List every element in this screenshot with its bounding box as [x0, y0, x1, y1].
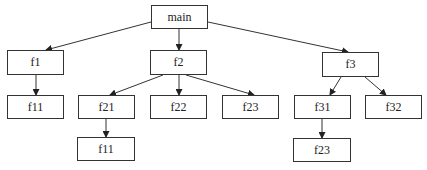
edge-f2-to-f23a: [186, 75, 254, 95]
node-f23-under-f31: f23: [293, 138, 351, 162]
node-f2: f2: [150, 50, 207, 75]
node-f1: f1: [7, 50, 64, 75]
edge-main-to-f3: [208, 22, 348, 52]
node-f21: f21: [78, 95, 135, 119]
node-f22: f22: [150, 95, 207, 119]
node-main: main: [151, 5, 208, 29]
node-f32: f32: [365, 95, 422, 119]
node-f11-under-f21: f11: [77, 137, 135, 161]
edge-f2-to-f21: [110, 75, 163, 95]
node-f23-under-f2: f23: [222, 95, 279, 119]
node-f11-under-f1: f11: [7, 95, 64, 119]
node-f31: f31: [294, 95, 351, 119]
node-f3: f3: [322, 52, 379, 77]
edge-f3-to-f32: [365, 77, 386, 95]
edge-main-to-f1: [46, 22, 151, 50]
edges-layer: [0, 0, 427, 170]
call-tree-diagram: main f1 f2 f3 f11 f21 f22 f23 f31 f32 f1…: [0, 0, 427, 170]
edge-f3-to-f31: [330, 77, 341, 95]
